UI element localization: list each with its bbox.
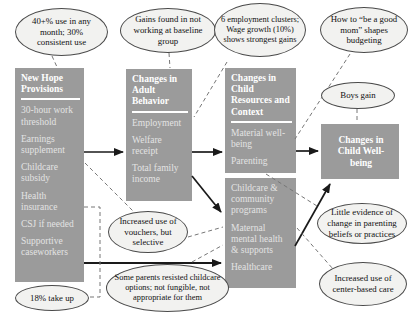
dash-vouchers-to-community [188, 227, 223, 237]
dash-baseline-to-adult [169, 53, 170, 68]
box-title: Changes in Child Resources and Context [231, 73, 292, 123]
callout-good-mom: How to “be a good mom” shapes budgeting [320, 7, 408, 53]
box-item: 30-hour work threshold [21, 105, 80, 127]
box-title: Changes in Adult Behavior [132, 74, 188, 113]
box-item: Maternal mental health & supports [231, 223, 292, 257]
box-item: Employment [132, 118, 188, 129]
callout-parenting-evidence: Little evidence of change in parenting b… [317, 203, 407, 244]
dash-clusters-to-adult [194, 62, 227, 117]
box-item: Health insurance [21, 191, 80, 213]
dash-resisted-to-community [192, 245, 223, 262]
diagram-canvas: New Hope Provisions 30-hour work thresho… [0, 0, 416, 316]
box-changes-child-wellbeing: Changes in Child Well-being [321, 124, 399, 179]
dash-csj-to-takeup [84, 207, 100, 297]
box-item: Earnings supplement [21, 134, 80, 156]
dash-usage-to-provisions [52, 56, 57, 67]
box-community-resources: Childcare & community programs Maternal … [225, 178, 296, 288]
box-item: Parenting [231, 156, 292, 167]
callout-baseline: Gains found in not working at baseline g… [120, 8, 216, 53]
box-item: Childcare & community programs [231, 183, 292, 217]
box-title: New Hope Provisions [21, 73, 80, 100]
box-changes-adult-behavior: Changes in Adult Behavior Employment Wel… [126, 69, 192, 201]
box-item: Material well-being [231, 128, 292, 150]
box-item: Supportive caseworkers [21, 236, 80, 258]
box-new-hope-provisions: New Hope Provisions 30-hour work thresho… [15, 68, 84, 282]
box-item: Childcare subsidy [21, 162, 80, 184]
callout-boys-gain: Boys gain [321, 82, 395, 109]
callout-usage: 40+% use in any month; 30% consistent us… [15, 8, 108, 56]
callout-center-based: Increased use of center-based care [319, 262, 407, 306]
box-changes-child-resources: Changes in Child Resources and Context M… [225, 68, 296, 173]
arrow-adult-to-community [192, 176, 221, 212]
box-item: Welfare receipt [132, 135, 188, 157]
callout-vouchers: Increased use of vouchers, but selective [108, 211, 188, 253]
callout-resisted: Some parents resisted childcare options;… [106, 264, 229, 312]
dashed-connectors [52, 53, 357, 297]
box-item: Healthcare [231, 262, 292, 273]
box-title: Changes in Child Well-being [327, 135, 395, 169]
box-item: Total family income [132, 163, 188, 185]
callout-take-up: 18% take up [15, 285, 89, 311]
callout-employment-clusters: 6 employment clusters; Wage growth (10%)… [214, 3, 306, 57]
box-item: CSJ if needed [21, 219, 80, 230]
